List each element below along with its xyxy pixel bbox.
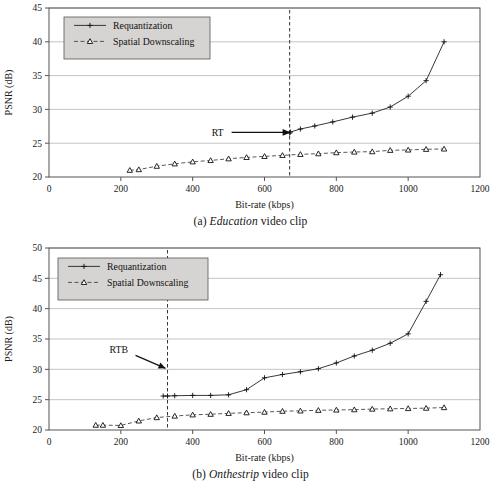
data-point-marker — [370, 348, 375, 353]
y-tick-label-20: 20 — [33, 172, 43, 182]
y-axis-title: PSNR (dB) — [3, 316, 15, 362]
data-point-marker — [424, 299, 429, 304]
x-tick-label-1200: 1200 — [471, 184, 490, 194]
y-tick-label-50: 50 — [33, 243, 43, 253]
annotation-label-rtb: RTB — [110, 344, 129, 355]
x-tick-label-1200: 1200 — [471, 437, 490, 447]
caption-education: (a) Education video clip — [0, 215, 501, 227]
data-point-marker — [441, 39, 446, 44]
data-point-marker — [388, 341, 393, 346]
x-tick-label-600: 600 — [257, 184, 272, 194]
y-axis-title: PSNR (dB) — [3, 70, 15, 116]
caption-onthestrip-italic: Onthestrip — [209, 468, 259, 480]
caption-education-suffix: video clip — [261, 215, 308, 227]
chart-education: 202530354045020040060080010001200Bit-rat… — [0, 0, 501, 215]
legend-label-requantization: Requantization — [107, 261, 166, 272]
figure-education: 202530354045020040060080010001200Bit-rat… — [0, 0, 501, 240]
data-point-marker — [280, 372, 285, 377]
data-point-marker — [438, 272, 443, 277]
y-tick-label-40: 40 — [33, 304, 43, 314]
data-point-marker — [298, 369, 303, 374]
data-point-marker — [172, 393, 177, 398]
y-tick-label-35: 35 — [33, 71, 43, 81]
series-line-requantization — [290, 42, 444, 133]
data-point-marker — [334, 360, 339, 365]
y-tick-label-40: 40 — [33, 37, 43, 47]
y-tick-label-30: 30 — [33, 105, 43, 115]
data-point-marker — [406, 331, 411, 336]
x-tick-label-800: 800 — [329, 437, 344, 447]
chart-onthestrip-canvas: 20253035404550020040060080010001200Bit-r… — [0, 240, 501, 468]
data-point-marker — [352, 353, 357, 358]
data-point-marker — [370, 111, 375, 116]
data-point-marker — [330, 119, 335, 124]
x-tick-label-800: 800 — [329, 184, 344, 194]
y-tick-label-20: 20 — [33, 425, 43, 435]
x-axis-title: Bit-rate (kbps) — [235, 452, 294, 464]
annotation-label-rt: RT — [212, 127, 224, 138]
data-point-marker — [208, 393, 213, 398]
y-tick-label-30: 30 — [33, 365, 43, 375]
legend-label-requantization: Requantization — [113, 20, 172, 31]
x-tick-label-600: 600 — [257, 437, 272, 447]
data-point-marker — [316, 366, 321, 371]
chart-education-canvas: 202530354045020040060080010001200Bit-rat… — [0, 0, 501, 215]
caption-onthestrip-suffix: video clip — [262, 468, 309, 480]
data-point-marker — [226, 392, 231, 397]
data-point-marker — [350, 115, 355, 120]
data-point-marker — [388, 104, 393, 109]
legend-label-spatial-downscaling: Spatial Downscaling — [113, 36, 194, 47]
caption-education-prefix: (a) — [194, 215, 207, 227]
y-tick-label-45: 45 — [33, 274, 43, 284]
data-point-marker — [298, 126, 303, 131]
figure-onthestrip: 20253035404550020040060080010001200Bit-r… — [0, 240, 501, 503]
caption-onthestrip: (b) Onthestrip video clip — [0, 468, 501, 480]
x-axis-title: Bit-rate (kbps) — [235, 199, 294, 211]
series-line-spatial-downscaling — [130, 149, 444, 170]
y-tick-label-25: 25 — [33, 395, 43, 405]
data-point-marker — [190, 393, 195, 398]
y-tick-label-25: 25 — [33, 139, 43, 149]
caption-education-italic: Education — [210, 215, 258, 227]
chart-onthestrip: 20253035404550020040060080010001200Bit-r… — [0, 240, 501, 468]
data-point-marker — [244, 387, 249, 392]
data-point-marker — [262, 375, 267, 380]
x-tick-label-1000: 1000 — [399, 437, 418, 447]
legend-label-spatial-downscaling: Spatial Downscaling — [107, 277, 188, 288]
x-tick-label-1000: 1000 — [399, 184, 418, 194]
x-tick-label-400: 400 — [186, 437, 201, 447]
x-tick-label-200: 200 — [114, 437, 129, 447]
x-tick-label-0: 0 — [47, 184, 52, 194]
y-tick-label-35: 35 — [33, 334, 43, 344]
data-point-marker — [165, 393, 170, 398]
data-point-marker — [312, 123, 317, 128]
y-tick-label-45: 45 — [33, 3, 43, 13]
x-tick-label-200: 200 — [114, 184, 129, 194]
data-point-marker — [154, 415, 159, 420]
caption-onthestrip-prefix: (b) — [192, 468, 206, 480]
x-tick-label-0: 0 — [47, 437, 52, 447]
x-tick-label-400: 400 — [186, 184, 201, 194]
